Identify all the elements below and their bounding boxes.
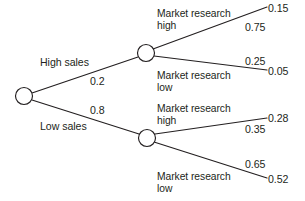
outcome-low-research-high: 0.28 xyxy=(268,113,288,125)
probability-low-research-high: 0.35 xyxy=(245,124,265,136)
probability-high-sales: 0.2 xyxy=(90,76,105,88)
outcome-low-research-low: 0.52 xyxy=(268,174,288,186)
probability-high-research-low: 0.25 xyxy=(245,56,265,68)
label-low-sales: Low sales xyxy=(40,121,87,133)
outcome-high-research-low: 0.05 xyxy=(268,66,288,78)
probability-low-sales: 0.8 xyxy=(90,105,105,117)
node-high-sales xyxy=(138,45,155,62)
label-high-research-high: Market research high xyxy=(157,8,231,31)
label-low-research-low: Market research low xyxy=(157,171,231,194)
label-low-research-high: Market research high xyxy=(157,103,231,126)
node-low-sales xyxy=(139,130,156,147)
probability-tree-diagram: High sales 0.2 0.8 Low sales Market rese… xyxy=(0,0,305,201)
label-high-research-low: Market research low xyxy=(157,70,231,93)
probability-low-research-low: 0.65 xyxy=(245,159,265,171)
label-high-sales: High sales xyxy=(40,57,89,69)
node-root xyxy=(16,88,33,105)
outcome-high-research-high: 0.15 xyxy=(268,3,288,15)
probability-high-research-high: 0.75 xyxy=(245,22,265,34)
